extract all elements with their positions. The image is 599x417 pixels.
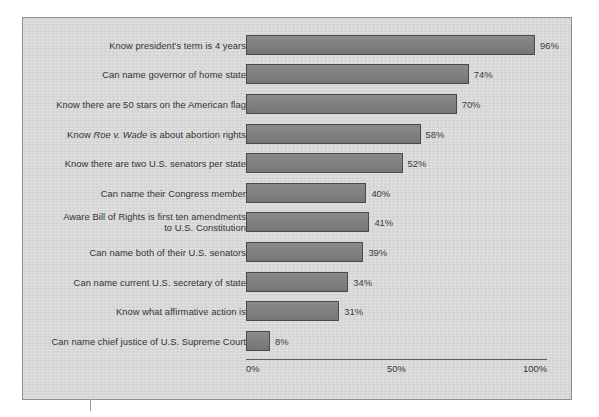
category-label: Know what affirmative action is: [31, 306, 246, 317]
bar-value-label: 41%: [374, 217, 393, 228]
bar: [246, 272, 348, 292]
chart-row: Can name governor of home state74%: [23, 60, 572, 90]
bar-value-label: 74%: [474, 69, 493, 80]
chart-row: Can name their Congress member40%: [23, 178, 572, 208]
bar: [246, 124, 421, 144]
chart-row: Aware Bill of Rights is first ten amendm…: [23, 208, 572, 238]
bar-value-label: 34%: [353, 276, 372, 287]
category-label: Can name current U.S. secretary of state: [31, 276, 246, 287]
bar: [246, 94, 457, 114]
x-axis-tick-50: 50%: [387, 363, 406, 374]
chart-row: Know president's term is 4 years96%: [23, 30, 572, 60]
category-label: Know president's term is 4 years: [31, 39, 246, 50]
bar: [246, 183, 366, 203]
page-canvas: 0% 50% 100% Know president's term is 4 y…: [0, 0, 599, 417]
bar-value-label: 58%: [426, 128, 445, 139]
bar: [246, 301, 339, 321]
bar-value-label: 70%: [462, 98, 481, 109]
bar: [246, 212, 369, 232]
registration-tick-mark: [90, 399, 91, 411]
bar: [246, 242, 363, 262]
bar-value-label: 40%: [371, 187, 390, 198]
plot-area: 0% 50% 100% Know president's term is 4 y…: [23, 18, 572, 400]
category-label: Know there are 50 stars on the American …: [31, 98, 246, 109]
chart-row: Know there are two U.S. senators per sta…: [23, 148, 572, 178]
category-label: Aware Bill of Rights is first ten amendm…: [31, 211, 246, 233]
x-axis-tick-0: 0%: [246, 363, 260, 374]
category-label: Can name both of their U.S. senators: [31, 246, 246, 257]
bar: [246, 331, 270, 351]
category-label: Can name governor of home state: [31, 69, 246, 80]
bar: [246, 64, 469, 84]
category-label: Know Roe v. Wade is about abortion right…: [31, 128, 246, 139]
bar: [246, 153, 403, 173]
chart-row: Can name current U.S. secretary of state…: [23, 267, 572, 297]
x-axis-tick-100: 100%: [523, 363, 547, 374]
chart-row: Can name chief justice of U.S. Supreme C…: [23, 326, 572, 356]
chart-panel: 0% 50% 100% Know president's term is 4 y…: [22, 17, 572, 400]
category-label: Can name their Congress member: [31, 187, 246, 198]
chart-row: Know there are 50 stars on the American …: [23, 89, 572, 119]
bar-value-label: 96%: [540, 39, 559, 50]
bar-value-label: 52%: [408, 158, 427, 169]
bar-value-label: 31%: [344, 306, 363, 317]
bar-value-label: 8%: [275, 335, 289, 346]
chart-row: Know what affirmative action is31%: [23, 296, 572, 326]
bar-value-label: 39%: [368, 246, 387, 257]
bar: [246, 35, 535, 55]
category-label: Can name chief justice of U.S. Supreme C…: [31, 335, 246, 346]
chart-row: Know Roe v. Wade is about abortion right…: [23, 119, 572, 149]
category-label: Know there are two U.S. senators per sta…: [31, 158, 246, 169]
x-axis-line: [246, 359, 547, 360]
chart-row: Can name both of their U.S. senators39%: [23, 237, 572, 267]
